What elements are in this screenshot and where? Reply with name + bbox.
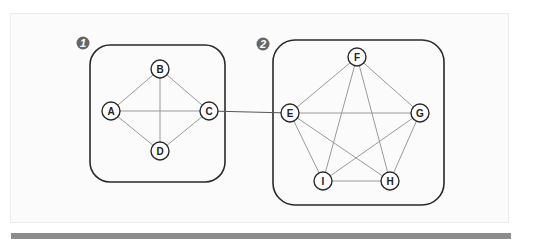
badges: 12: [77, 37, 270, 51]
node-I: I: [314, 172, 332, 190]
node-label: B: [156, 64, 163, 75]
group-1-badge: 1: [77, 37, 90, 50]
node-label: A: [107, 106, 114, 117]
edge-E-F: [290, 57, 357, 113]
node-C: C: [200, 102, 218, 120]
node-label: E: [287, 108, 294, 119]
node-label: F: [354, 52, 360, 63]
group-2-badge: 2: [257, 38, 270, 51]
badge-number: 2: [259, 38, 266, 50]
node-F: F: [348, 48, 366, 66]
edge-F-G: [357, 57, 420, 113]
node-A: A: [102, 102, 120, 120]
edge-E-I: [290, 113, 323, 181]
node-G: G: [411, 104, 429, 122]
node-label: G: [416, 108, 424, 119]
node-B: B: [151, 60, 169, 78]
edge-F-I: [323, 57, 357, 181]
nodes: ABCDEFGHI: [102, 48, 429, 190]
node-label: C: [205, 106, 212, 117]
bridge-edge-C-E: [209, 111, 290, 113]
graph-diagram: ABCDEFGHI 12: [0, 0, 534, 239]
node-label: D: [156, 146, 163, 157]
node-E: E: [281, 104, 299, 122]
node-label: H: [386, 176, 393, 187]
node-label: I: [322, 176, 325, 187]
node-D: D: [151, 142, 169, 160]
badge-number: 1: [80, 37, 86, 49]
node-H: H: [381, 172, 399, 190]
